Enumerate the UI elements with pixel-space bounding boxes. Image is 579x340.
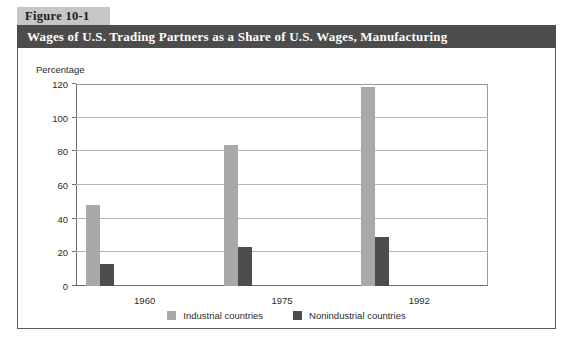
figure-root: Figure 10-1 Wages of U.S. Trading Partne… [0,0,579,340]
figure-title-bar: Wages of U.S. Trading Partners as a Shar… [17,25,556,48]
bar-group [351,84,488,286]
bar-1975-industrial [224,145,238,286]
y-axis-title: Percentage [36,64,85,75]
y-axis-tick-label: 120 [52,79,68,90]
legend-swatch-icon [293,311,302,320]
chart-panel: Percentage 020406080100120 196019751992 … [17,48,556,329]
x-axis-tick-label: 1992 [409,295,430,306]
figure-title: Wages of U.S. Trading Partners as a Shar… [27,29,447,45]
bars-layer [76,84,488,286]
y-axis-tick-label: 80 [57,146,68,157]
bar-1960-industrial [86,205,100,286]
x-axis-tick-label: 1975 [271,295,292,306]
bar-1992-industrial [361,87,375,286]
y-axis-tick-label: 100 [52,112,68,123]
legend-item-industrial: Industrial countries [167,310,263,321]
bar-1992-nonindustrial [375,237,389,286]
x-axis-tick-label: 1960 [134,295,155,306]
bar-1975-nonindustrial [238,247,252,286]
y-axis-tick-label: 20 [57,247,68,258]
y-axis-tick-label: 60 [57,180,68,191]
y-axis-tick-label: 0 [63,281,68,292]
bar-group [213,84,350,286]
figure-number-tab: Figure 10-1 [17,7,110,25]
bar-1960-nonindustrial [100,264,114,286]
legend-label: Nonindustrial countries [309,310,406,321]
legend-label: Industrial countries [183,310,263,321]
plot-area: 020406080100120 196019751992 [76,84,488,286]
bar-group [76,84,213,286]
legend-swatch-icon [167,311,176,320]
chart-legend: Industrial countriesNonindustrial countr… [18,310,555,321]
y-axis-tick-label: 40 [57,213,68,224]
legend-item-nonindustrial: Nonindustrial countries [293,310,406,321]
figure-number-label: Figure 10-1 [25,9,90,24]
